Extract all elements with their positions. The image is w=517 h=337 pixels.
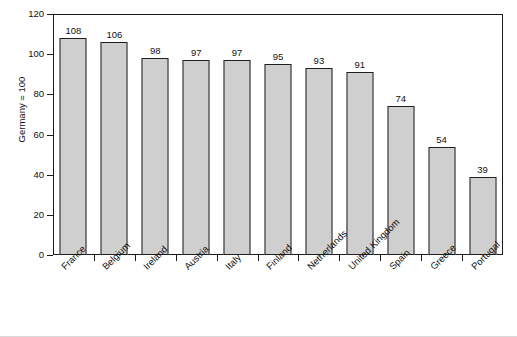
bars-layer: 108106989797959391745439: [53, 14, 503, 255]
x-axis-tick-mark: [94, 255, 95, 261]
bar-value-label: 97: [191, 47, 202, 58]
bar-value-label: 91: [355, 59, 366, 70]
x-axis-tick-mark: [135, 255, 136, 261]
bar-value-label: 108: [66, 25, 82, 36]
bar-value-label: 54: [436, 134, 447, 145]
y-axis-tick-label: 20: [33, 210, 44, 220]
bar-chart-figure: 020406080100120 Germany = 100 1081069897…: [0, 0, 517, 337]
bar: [305, 68, 332, 255]
y-axis-tick-label: 120: [28, 9, 44, 19]
bar-value-label: 98: [150, 45, 161, 56]
bar-value-label: 93: [314, 55, 325, 66]
x-axis-tick-mark: [462, 255, 463, 261]
bar-group: 74: [380, 14, 421, 255]
bar-value-label: 74: [395, 93, 406, 104]
x-axis-tick-mark: [380, 255, 381, 261]
bar-value-label: 106: [106, 29, 122, 40]
bar: [264, 64, 291, 255]
bar-group: 39: [462, 14, 503, 255]
bar-group: 108: [53, 14, 94, 255]
y-axis-tick-label: 80: [33, 89, 44, 99]
x-axis-tick-mark: [298, 255, 299, 261]
x-axis-tick-mark: [339, 255, 340, 261]
bar: [428, 147, 455, 255]
bar-group: 91: [339, 14, 380, 255]
bar: [142, 58, 169, 255]
x-axis-tick-mark: [217, 255, 218, 261]
bar-group: 93: [298, 14, 339, 255]
bar-group: 95: [258, 14, 299, 255]
bar: [224, 60, 251, 255]
y-axis-tick-label: 40: [33, 170, 44, 180]
bar-group: 54: [421, 14, 462, 255]
y-axis-tick-label: 60: [33, 130, 44, 140]
y-axis-tick-label: 100: [28, 49, 44, 59]
bar-value-label: 39: [477, 164, 488, 175]
bar-group: 97: [176, 14, 217, 255]
bar: [101, 42, 128, 255]
x-axis-tick-mark: [421, 255, 422, 261]
bar-value-label: 95: [273, 51, 284, 62]
y-axis-tick-label: 0: [39, 250, 44, 260]
bar-value-label: 97: [232, 47, 243, 58]
x-axis-tick-mark: [258, 255, 259, 261]
bar-group: 98: [135, 14, 176, 255]
bar-group: 97: [217, 14, 258, 255]
y-axis-tick-mark: [47, 255, 53, 256]
bar: [60, 38, 87, 255]
bar: [346, 72, 373, 255]
x-axis-tick-mark: [176, 255, 177, 261]
bar: [183, 60, 210, 255]
y-axis-title: Germany = 100: [16, 45, 27, 175]
bar-group: 106: [94, 14, 135, 255]
